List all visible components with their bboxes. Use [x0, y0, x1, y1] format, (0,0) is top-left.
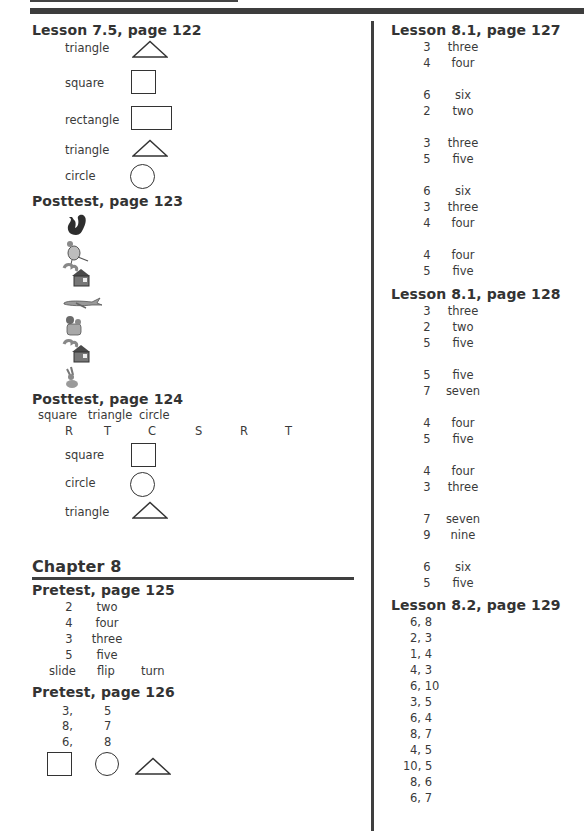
word-answer: three	[438, 200, 488, 214]
shape-word: triangle	[88, 408, 132, 422]
answer-label: rectangle	[65, 113, 119, 127]
pair-answer: 6, 8	[410, 615, 432, 629]
pair-answer: 1, 4	[410, 647, 432, 661]
pair-answer: 6, 7	[410, 791, 432, 805]
pair-answer: 6, 4	[410, 711, 432, 725]
pair-second: 8	[104, 735, 111, 749]
word-answer: two	[438, 104, 488, 118]
word-answer: three	[82, 632, 132, 646]
word-answer: two	[82, 600, 132, 614]
section-title-pretest-126: Pretest, page 126	[32, 684, 175, 700]
letter-answer: S	[195, 424, 202, 438]
word-answer: five	[438, 336, 488, 350]
letter-answer: T	[285, 424, 292, 438]
word-answer: six	[438, 88, 488, 102]
pair-second: 5	[104, 704, 111, 718]
pair-first: 6,	[62, 735, 73, 749]
move-answer: slide	[49, 664, 76, 678]
word-answer: four	[438, 464, 488, 478]
section-title-lesson-7-5: Lesson 7.5, page 122	[32, 22, 202, 38]
shape-word: square	[38, 408, 77, 422]
word-answer: four	[438, 216, 488, 230]
answer-label: circle	[65, 476, 96, 490]
number-answer: 4	[420, 416, 434, 430]
number-answer: 3	[420, 304, 434, 318]
answer-label: square	[65, 448, 104, 462]
word-answer: five	[438, 152, 488, 166]
number-answer: 4	[420, 216, 434, 230]
shape-word: circle	[139, 408, 170, 422]
number-answer: 4	[420, 248, 434, 262]
answer-label: triangle	[65, 505, 109, 519]
word-answer: six	[438, 184, 488, 198]
pair-answer: 6, 10	[410, 679, 439, 693]
section-title-posttest-124: Posttest, page 124	[32, 391, 183, 407]
number-answer: 5	[420, 264, 434, 278]
word-answer: five	[438, 264, 488, 278]
letter-answer: R	[65, 424, 73, 438]
house-icon	[62, 338, 94, 364]
section-title-lesson-8-2-129: Lesson 8.2, page 129	[391, 597, 561, 613]
number-answer: 5	[420, 336, 434, 350]
number-answer: 4	[420, 56, 434, 70]
number-answer: 9	[420, 528, 434, 542]
pair-first: 3,	[62, 704, 73, 718]
pair-second: 7	[104, 719, 111, 733]
pair-answer: 4, 3	[410, 663, 432, 677]
pair-first: 8,	[62, 719, 73, 733]
letter-answer: T	[104, 424, 111, 438]
pair-answer: 8, 6	[410, 775, 432, 789]
pair-answer: 2, 3	[410, 631, 432, 645]
column-divider	[371, 21, 374, 831]
number-answer: 2	[420, 104, 434, 118]
answer-label: square	[65, 76, 104, 90]
letter-answer: R	[240, 424, 248, 438]
square-icon	[131, 70, 156, 94]
word-answer: five	[438, 576, 488, 590]
number-answer: 5	[420, 368, 434, 382]
section-title-pretest-125: Pretest, page 125	[32, 582, 175, 598]
number-answer: 3	[420, 136, 434, 150]
rectangle-icon	[131, 106, 172, 130]
word-answer: nine	[438, 528, 488, 542]
airplane-icon	[62, 296, 104, 310]
square-icon	[131, 443, 156, 467]
pair-answer: 10, 5	[403, 759, 432, 773]
circle-icon	[95, 752, 119, 776]
section-title-posttest-123: Posttest, page 123	[32, 193, 183, 209]
triangle-icon	[135, 757, 171, 775]
word-answer: seven	[438, 512, 488, 526]
number-answer: 3	[420, 200, 434, 214]
answer-label: triangle	[65, 143, 109, 157]
top-rule-thin	[30, 0, 238, 2]
house-icon	[62, 262, 94, 288]
number-answer: 6	[420, 88, 434, 102]
number-answer: 2	[420, 320, 434, 334]
answer-label: circle	[65, 169, 96, 183]
triangle-icon	[132, 501, 168, 519]
number-answer: 7	[420, 384, 434, 398]
top-rule-thick	[30, 8, 584, 14]
triangle-icon	[132, 139, 168, 157]
number-answer: 4	[420, 464, 434, 478]
number-answer: 6	[420, 560, 434, 574]
word-answer: three	[438, 136, 488, 150]
number-answer: 5	[420, 152, 434, 166]
number-answer: 3	[420, 480, 434, 494]
move-answer: turn	[141, 664, 165, 678]
word-answer: three	[438, 40, 488, 54]
move-answer: flip	[97, 664, 115, 678]
answer-label: triangle	[65, 41, 109, 55]
number-answer: 3	[420, 40, 434, 54]
word-answer: four	[438, 56, 488, 70]
number-answer: 6	[420, 184, 434, 198]
word-answer: two	[438, 320, 488, 334]
pair-answer: 3, 5	[410, 695, 432, 709]
word-answer: four	[438, 416, 488, 430]
word-answer: five	[438, 368, 488, 382]
letter-answer: C	[148, 424, 156, 438]
chapter-rule	[32, 577, 354, 580]
number-answer: 2	[62, 600, 76, 614]
number-answer: 5	[420, 432, 434, 446]
section-title-lesson-8-1-127: Lesson 8.1, page 127	[391, 22, 561, 38]
